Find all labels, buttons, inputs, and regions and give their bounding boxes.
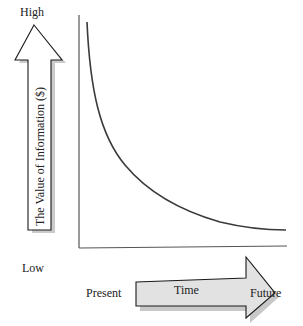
value-decay-curve	[87, 22, 286, 230]
y-axis-title: The Value of Information ($)	[33, 87, 47, 226]
x-axis-line	[79, 246, 287, 248]
x-axis-title: Time	[174, 283, 199, 297]
diagram-canvas: The Value of Information ($)	[0, 0, 303, 326]
x-axis-present-label: Present	[86, 286, 121, 300]
y-axis-low-label: Low	[22, 261, 44, 275]
y-axis-high-label: High	[20, 5, 44, 19]
x-axis-future-label: Future	[250, 286, 281, 300]
